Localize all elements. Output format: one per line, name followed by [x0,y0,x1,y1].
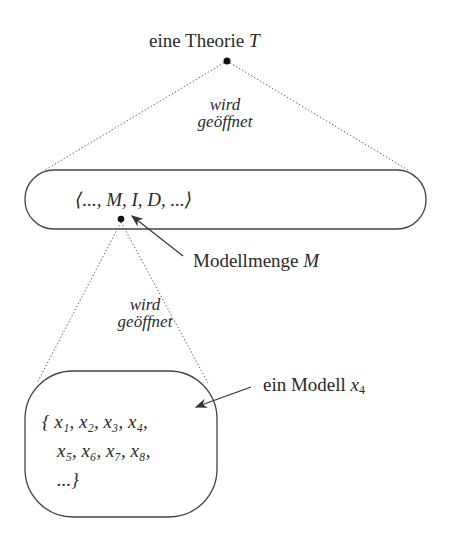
theory-label-text: eine Theorie [149,30,249,51]
opened-line2: geöffnet [105,313,185,330]
set-line-3: ...} [42,465,150,494]
opened-line2: geöffnet [185,113,265,130]
modellmenge-text: Modellmenge [193,250,303,271]
arrow-model [196,387,251,407]
opened-label-top: wird geöffnet [185,96,265,130]
model-variable: x [351,374,359,395]
theory-point [224,58,231,65]
opened-line1: wird [105,296,185,313]
theory-variable: T [249,30,260,51]
model-subscript: 4 [359,383,365,397]
modellmenge-variable: M [303,250,319,271]
model-set-text: { x₁, x₂, x₃, x₄, x₅, x₆, x₇, x₈, ...} [42,407,150,494]
theory-label: eine Theorie T [149,30,259,52]
model-label-text: ein Modell [263,374,351,395]
model-set-point [118,216,125,223]
opened-label-bottom: wird geöffnet [105,296,185,330]
set-line-1: { x₁, x₂, x₃, x₄, [42,407,150,436]
modellmenge-label: Modellmenge M [193,250,319,272]
set-line-2: x₅, x₆, x₇, x₈, [42,436,150,465]
model-label: ein Modell x4 [263,374,365,398]
opened-line1: wird [185,96,265,113]
tuple-text: ⟨..., M, I, D, ...⟩ [75,188,192,211]
arrow-modellmenge [132,216,183,256]
